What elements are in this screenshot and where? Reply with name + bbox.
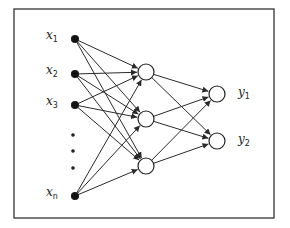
edge-x2-h1 [78, 72, 137, 74]
network-svg [0, 0, 290, 228]
hidden-node-h2 [138, 111, 154, 127]
edge-xn-h1 [77, 80, 142, 193]
edge-x1-h2 [77, 42, 140, 113]
input-node-x3 [72, 102, 79, 109]
neural-network-diagram: x1x2x3xny1y2 [0, 0, 290, 228]
label-x2: x2 [46, 64, 58, 79]
edge-x1-h1 [78, 40, 138, 68]
label-x1: x1 [46, 29, 58, 44]
label-x3: x3 [46, 95, 58, 110]
input-node-xn [72, 193, 79, 200]
edge-x3-h3 [78, 107, 140, 160]
edge-h3-y2 [154, 144, 209, 163]
label-y1: y1 [238, 86, 250, 101]
hidden-node-h1 [138, 64, 154, 80]
edge-xn-h3 [78, 170, 137, 195]
label-xn: xn [46, 186, 58, 201]
output-node-y1 [209, 86, 225, 102]
ellipsis-dot-2 [72, 150, 74, 152]
edge-x2-h2 [78, 76, 138, 114]
edge-h2-y1 [154, 97, 209, 116]
edge-xn-h2 [77, 126, 140, 194]
ellipsis-dot-1 [72, 134, 74, 136]
output-node-y2 [209, 133, 225, 149]
edge-h1-y1 [154, 74, 209, 91]
input-node-x1 [72, 36, 79, 43]
hidden-node-h3 [138, 158, 154, 174]
label-y2: y2 [238, 133, 250, 148]
edge-h3-y1 [152, 100, 211, 160]
ellipsis-dot-3 [72, 167, 74, 169]
input-node-x2 [72, 71, 79, 78]
